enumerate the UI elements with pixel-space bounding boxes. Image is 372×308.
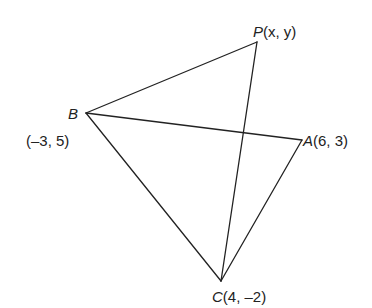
segment-BA bbox=[86, 113, 302, 140]
label-point-B: B bbox=[68, 105, 78, 122]
segment-BC bbox=[86, 113, 221, 281]
segments bbox=[86, 42, 302, 281]
label-point-A: A(6, 3) bbox=[302, 132, 348, 149]
label-point-P: P(x, y) bbox=[253, 23, 296, 40]
segment-BP bbox=[86, 42, 257, 113]
label-point-C: C(4, –2) bbox=[212, 288, 266, 305]
geometry-diagram: P(x, y) B (–3, 5) A(6, 3) C(4, –2) bbox=[0, 0, 372, 308]
segment-PC bbox=[221, 42, 257, 281]
diagram-svg: P(x, y) B (–3, 5) A(6, 3) C(4, –2) bbox=[0, 0, 372, 308]
label-point-B-coords: (–3, 5) bbox=[26, 132, 69, 149]
segment-AC bbox=[221, 140, 302, 281]
